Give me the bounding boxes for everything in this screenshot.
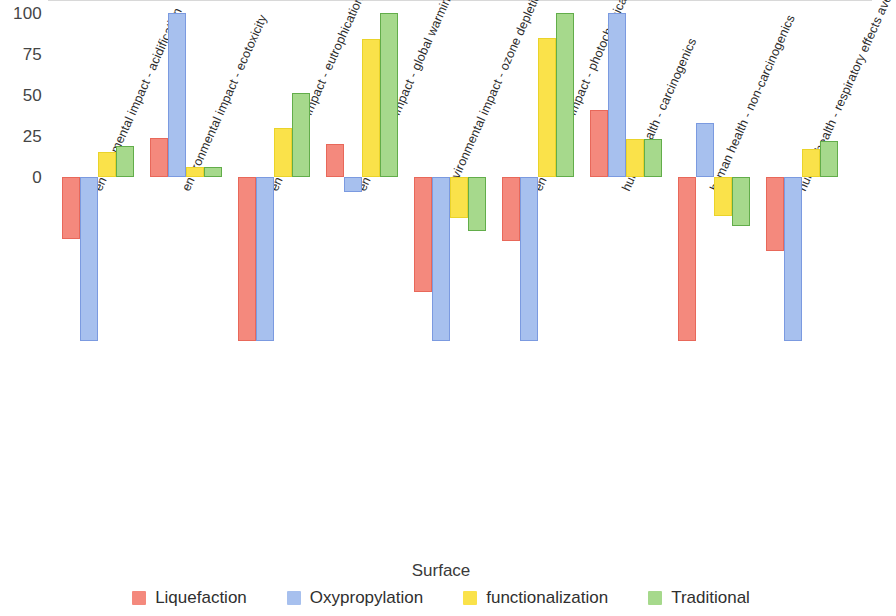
bar-group: [414, 0, 486, 350]
bar-group: [502, 0, 574, 350]
y-tick-label: 75: [23, 46, 42, 63]
bar[interactable]: [168, 13, 186, 177]
bar-group: [766, 0, 838, 350]
bar[interactable]: [186, 167, 204, 177]
bar[interactable]: [626, 139, 644, 177]
legend-label: Liquefaction: [155, 588, 247, 607]
bar[interactable]: [98, 152, 116, 177]
bar[interactable]: [820, 141, 838, 177]
legend-label: Traditional: [671, 588, 750, 607]
bar[interactable]: [590, 110, 608, 177]
bar[interactable]: [556, 13, 574, 177]
legend-swatch-icon: [463, 591, 477, 605]
bar[interactable]: [766, 177, 784, 251]
legend-swatch-icon: [648, 591, 662, 605]
bar-group: [678, 0, 750, 350]
bar[interactable]: [784, 177, 802, 341]
bar[interactable]: [150, 138, 168, 177]
legend-label: functionalization: [486, 588, 608, 607]
y-axis: 0255075100: [0, 0, 46, 350]
bar-group: [590, 0, 662, 350]
y-tick-label: 50: [23, 87, 42, 104]
bar[interactable]: [414, 177, 432, 292]
legend-label: Oxypropylation: [310, 588, 423, 607]
bar-group: [238, 0, 310, 350]
bar[interactable]: [802, 149, 820, 177]
bar-group: [62, 0, 134, 350]
bar-group: [326, 0, 398, 350]
plot-area: environmental impact - acidificationenvi…: [48, 0, 872, 350]
legend-item[interactable]: functionalization: [463, 588, 608, 607]
bar[interactable]: [344, 177, 362, 192]
bar-group: [150, 0, 222, 350]
bar[interactable]: [292, 93, 310, 177]
y-tick-label: 100: [13, 5, 42, 22]
bar[interactable]: [608, 13, 626, 177]
bar[interactable]: [432, 177, 450, 341]
bar[interactable]: [732, 177, 750, 226]
legend-title: Surface: [0, 561, 882, 581]
bar[interactable]: [362, 39, 380, 177]
bar[interactable]: [714, 177, 732, 216]
y-tick-label: 0: [32, 169, 42, 186]
bar[interactable]: [450, 177, 468, 218]
bar[interactable]: [274, 128, 292, 177]
bar[interactable]: [502, 177, 520, 241]
bar[interactable]: [468, 177, 486, 231]
legend-item[interactable]: Oxypropylation: [287, 588, 423, 607]
legend: LiquefactionOxypropylationfunctionalizat…: [0, 588, 882, 607]
bar[interactable]: [326, 144, 344, 177]
legend-item[interactable]: Traditional: [648, 588, 750, 607]
bar[interactable]: [238, 177, 256, 341]
bar[interactable]: [520, 177, 538, 341]
y-tick-label: 25: [23, 128, 42, 145]
legend-swatch-icon: [287, 591, 301, 605]
bar[interactable]: [62, 177, 80, 239]
bar[interactable]: [116, 146, 134, 177]
bar[interactable]: [696, 123, 714, 177]
bar[interactable]: [538, 38, 556, 177]
legend-item[interactable]: Liquefaction: [132, 588, 247, 607]
bar[interactable]: [256, 177, 274, 341]
bar[interactable]: [644, 139, 662, 177]
bar[interactable]: [80, 177, 98, 341]
legend-swatch-icon: [132, 591, 146, 605]
bar[interactable]: [380, 13, 398, 177]
bar[interactable]: [204, 167, 222, 177]
bar[interactable]: [678, 177, 696, 341]
